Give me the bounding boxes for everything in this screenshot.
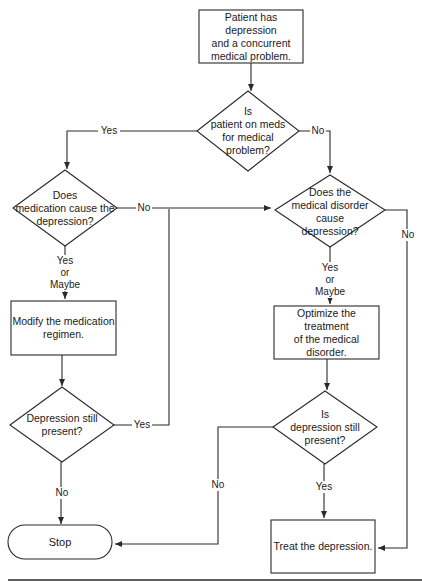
edge-label-disorder-cause-no: No: [400, 229, 416, 241]
edge-label-right-still-yes: Yes: [314, 481, 334, 493]
edge-label-on-meds-no: No: [310, 125, 326, 137]
edge-label-right-still-no: No: [210, 479, 226, 491]
stop-terminator-text: Stop: [8, 525, 112, 559]
still-present-right-text: Is depression still present?: [280, 404, 370, 450]
edge-label-med-cause-yes: Yes or Maybe: [50, 255, 80, 291]
on-meds-diamond-text: Is patient on meds for medical problem?: [207, 103, 289, 159]
disorder-cause-diamond-text: Does the medical disorder cause depressi…: [285, 184, 375, 240]
start-box-text: Patient has depression and a concurrent …: [199, 10, 303, 63]
optimize-box-text: Optimize the treatment of the medical di…: [274, 306, 379, 359]
edge-label-disorder-cause-yes: Yes or Maybe: [315, 262, 345, 298]
treat-box-text: Treat the depression.: [271, 520, 375, 573]
medication-cause-diamond-text: Does medication cause the depression?: [15, 186, 115, 230]
still-present-left-text: Depression still present?: [18, 408, 106, 442]
edge-label-med-cause-no: No: [136, 202, 152, 214]
modify-box-text: Modify the medication regimen.: [11, 301, 116, 355]
edge-label-left-still-no: No: [54, 487, 70, 499]
edge-label-on-meds-yes: Yes: [98, 125, 120, 137]
edge-label-left-still-yes: Yes: [132, 419, 152, 431]
